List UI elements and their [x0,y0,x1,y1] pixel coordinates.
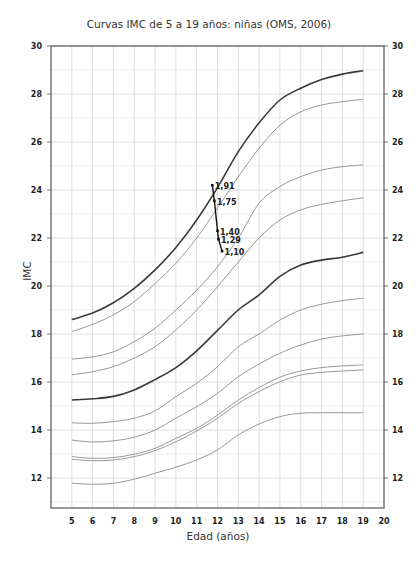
y-tick-label-left: 28 [31,90,43,99]
x-tick-label: 11 [191,517,203,526]
x-tick-label: 6 [90,517,96,526]
x-axis-label: Edad (años) [187,530,250,542]
x-tick-label: 20 [378,517,390,526]
y-tick-label-right: 12 [392,474,403,483]
x-axis: 567891011121314151617181920 [69,517,390,526]
y-tick-label-right: 26 [392,138,404,147]
x-tick-label: 14 [254,517,266,526]
y-tick-label-left: 20 [31,282,43,291]
annotation-label: 1,75 [217,198,237,207]
grid [51,46,384,508]
y-tick-label-right: 22 [392,234,403,243]
chart-title: Curvas IMC de 5 a 19 años: niñas (OMS, 2… [87,18,331,30]
x-tick-label: 19 [358,517,370,526]
x-tick-label: 18 [337,517,349,526]
x-tick-label: 8 [131,517,137,526]
y-tick-label-right: 28 [392,90,404,99]
y-tick-label-left: 14 [31,426,43,435]
annotation-marker [216,230,219,233]
y-tick-label-left: 26 [31,138,43,147]
y-tick-label-left: 24 [31,186,43,195]
x-tick-label: 13 [233,517,244,526]
y-tick-label-right: 20 [392,282,404,291]
annotation-label: 1,91 [215,182,235,191]
x-tick-label: 16 [295,517,307,526]
x-tick-label: 15 [274,517,286,526]
annotation-marker [211,184,214,187]
y-tick-label-left: 30 [31,42,43,51]
x-tick-label: 17 [316,517,327,526]
y-axis-label: IMC [21,261,33,281]
annotation-marker [213,200,216,203]
y-tick-label-left: 18 [31,330,43,339]
y-tick-label-right: 24 [392,186,404,195]
x-tick-label: 5 [69,517,75,526]
y-axis-right: 12141618202224262830 [384,42,404,483]
y-tick-label-right: 18 [392,330,404,339]
annotation-label: 1,10 [225,248,245,257]
y-tick-label-left: 16 [31,378,43,387]
y-tick-label-right: 14 [392,426,404,435]
y-axis-left: 12141618202224262830 [31,42,51,483]
x-tick-label: 9 [152,517,158,526]
annotation: 1,911,751,401,291,10 [211,182,245,257]
y-tick-label-right: 16 [392,378,404,387]
y-tick-label-right: 30 [392,42,404,51]
x-tick-label: 7 [111,517,117,526]
bmi-chart: Curvas IMC de 5 a 19 años: niñas (OMS, 2… [0,0,418,569]
x-tick-label: 10 [170,517,182,526]
annotation-marker [221,250,224,253]
y-tick-label-left: 12 [31,474,42,483]
annotation-marker [217,238,220,241]
x-tick-label: 12 [212,517,223,526]
y-tick-label-left: 22 [31,234,42,243]
annotation-label: 1,29 [221,236,241,245]
